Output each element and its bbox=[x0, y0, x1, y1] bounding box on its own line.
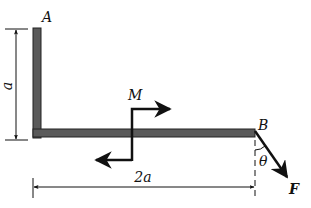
force-label: F bbox=[288, 181, 300, 197]
point-a-label: A bbox=[40, 9, 52, 25]
dimension-a-label: a bbox=[0, 82, 15, 90]
dimension-2a-label: 2a bbox=[133, 169, 151, 185]
horizontal-bar bbox=[33, 129, 255, 137]
l-bar-diagram: a 2a A B M F θ bbox=[0, 0, 311, 208]
point-b-label: B bbox=[257, 117, 268, 133]
angle-arc bbox=[255, 146, 265, 150]
vertical-bar bbox=[33, 28, 41, 138]
moment-label: M bbox=[127, 87, 143, 103]
angle-theta-label: θ bbox=[259, 153, 268, 169]
